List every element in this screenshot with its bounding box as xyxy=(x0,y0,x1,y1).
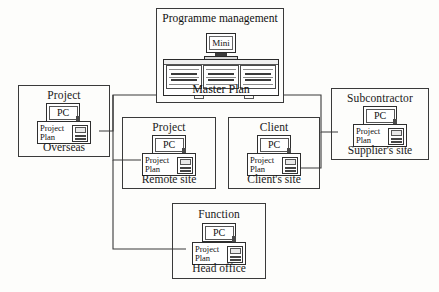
pc-screen-label: PC xyxy=(260,138,289,152)
head-office-footer: Head office xyxy=(173,262,265,274)
workstation-icon xyxy=(72,125,88,142)
mini-screen-label: Mini xyxy=(209,36,233,50)
node-head-office: Function PC Project Plan Head office xyxy=(172,203,266,279)
node-remote-site: Project PC Project Plan Remote site xyxy=(122,117,216,189)
master-plan-label: Master Plan xyxy=(164,83,278,96)
workstation-icon xyxy=(177,157,193,174)
overseas-title: Project xyxy=(19,89,109,101)
diagram-canvas: Programme management Mini xyxy=(0,0,439,292)
workstation-icon xyxy=(282,157,298,174)
mini-computer-icon: Mini xyxy=(203,33,239,61)
node-programme-management: Programme management Mini xyxy=(156,8,284,103)
remote-site-footer: Remote site xyxy=(123,173,215,185)
pc-icon: PC xyxy=(202,223,238,244)
head-office-title: Function xyxy=(173,208,265,220)
clients-site-title: Client xyxy=(229,121,319,133)
remote-site-title: Project xyxy=(123,121,215,133)
overseas-footer: Overseas xyxy=(19,141,109,153)
pc-screen-label: PC xyxy=(155,138,184,152)
node-clients-site: Client PC Project Plan Client's site xyxy=(228,117,320,189)
pc-screen-label: PC xyxy=(205,226,234,240)
pc-screen-label: PC xyxy=(366,109,395,123)
node-suppliers-site: Subcontractor PC Project Plan Supplier's… xyxy=(331,88,429,160)
clients-site-footer: Client's site xyxy=(229,173,319,185)
mainframe-feet xyxy=(172,96,270,99)
workstation-icon xyxy=(388,128,404,145)
programme-management-title: Programme management xyxy=(157,12,283,24)
suppliers-site-title: Subcontractor xyxy=(332,92,428,104)
suppliers-site-footer: Supplier's site xyxy=(332,144,428,156)
workstation-icon xyxy=(227,246,243,263)
pc-screen-label: PC xyxy=(49,106,78,120)
node-overseas: Project PC Project Plan Overseas xyxy=(18,85,110,157)
mainframe-icon: Master Plan xyxy=(163,59,279,96)
